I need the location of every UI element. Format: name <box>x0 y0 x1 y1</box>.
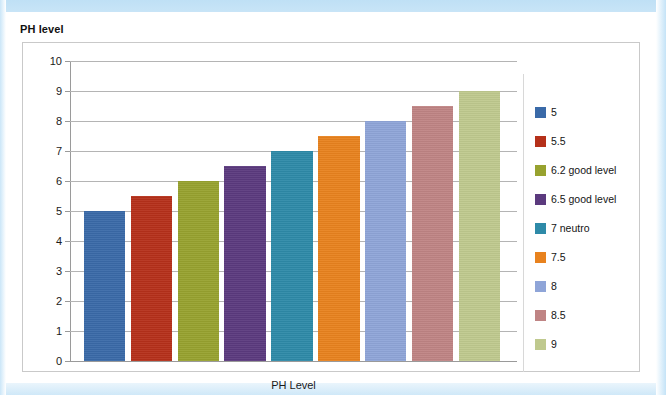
legend-item[interactable]: 5.5 <box>535 127 639 156</box>
bar[interactable] <box>131 196 172 361</box>
y-axis-tick <box>65 331 70 332</box>
y-axis-label: 8 <box>56 115 62 127</box>
y-axis-tick <box>65 91 70 92</box>
y-axis-label: 7 <box>56 145 62 157</box>
y-axis-label: 0 <box>56 355 62 367</box>
bar-slot <box>269 61 316 361</box>
y-axis-tick <box>65 61 70 62</box>
legend-swatch-icon <box>535 252 546 263</box>
bar[interactable] <box>224 166 265 361</box>
y-axis-tick <box>65 241 70 242</box>
y-axis-tick <box>65 181 70 182</box>
bar-slot <box>81 61 128 361</box>
x-axis-title: PH Level <box>70 379 517 391</box>
legend-item[interactable]: 7 neutro <box>535 214 639 243</box>
plot-area: 109876543210 <box>70 61 517 361</box>
y-axis-label: 1 <box>56 325 62 337</box>
legend-label: 6.2 good level <box>551 165 616 176</box>
y-axis-tick <box>65 151 70 152</box>
y-axis-tick <box>65 121 70 122</box>
legend-item[interactable]: 8.5 <box>535 301 639 330</box>
bar[interactable] <box>271 151 312 361</box>
legend-swatch-icon <box>535 310 546 321</box>
legend-label: 5.5 <box>551 136 566 147</box>
bar-series <box>71 61 517 361</box>
legend-swatch-icon <box>535 339 546 350</box>
bar-slot <box>456 61 503 361</box>
legend-item[interactable]: 7.5 <box>535 243 639 272</box>
y-axis-tick <box>65 301 70 302</box>
legend-swatch-icon <box>535 136 546 147</box>
bar-slot <box>128 61 175 361</box>
y-axis-tick <box>65 211 70 212</box>
y-axis-tick <box>65 361 70 362</box>
bar[interactable] <box>365 121 406 361</box>
bar[interactable] <box>178 181 219 361</box>
chart-plot-frame: 109876543210 PH Level 55.56.2 good level… <box>22 42 640 372</box>
legend-swatch-icon <box>535 194 546 205</box>
bar-slot <box>409 61 456 361</box>
legend-item[interactable]: 5 <box>535 98 639 127</box>
bar-slot <box>315 61 362 361</box>
legend-swatch-icon <box>535 281 546 292</box>
chart-card: PH level 109876543210 PH Level 55.56.2 g… <box>6 12 656 383</box>
y-axis-tick <box>65 271 70 272</box>
page-root: PH level 109876543210 PH Level 55.56.2 g… <box>0 0 666 395</box>
y-axis-label: 5 <box>56 205 62 217</box>
legend-item[interactable]: 6.5 good level <box>535 185 639 214</box>
legend-swatch-icon <box>535 165 546 176</box>
chart-legend: 55.56.2 good level6.5 good level7 neutro… <box>535 98 639 359</box>
bar-slot <box>362 61 409 361</box>
legend-swatch-icon <box>535 223 546 234</box>
legend-item[interactable]: 6.2 good level <box>535 156 639 185</box>
bar-slot <box>175 61 222 361</box>
legend-label: 9 <box>551 339 557 350</box>
y-axis-label: 2 <box>56 295 62 307</box>
bar[interactable] <box>459 91 500 361</box>
y-axis-label: 4 <box>56 235 62 247</box>
y-axis-label: 3 <box>56 265 62 277</box>
legend-label: 8 <box>551 281 557 292</box>
legend-label: 6.5 good level <box>551 194 616 205</box>
legend-item[interactable]: 8 <box>535 272 639 301</box>
y-axis-label: 6 <box>56 175 62 187</box>
legend-swatch-icon <box>535 107 546 118</box>
y-axis-label: 9 <box>56 85 62 97</box>
bar-slot <box>222 61 269 361</box>
legend-item[interactable]: 9 <box>535 330 639 359</box>
gridline: 0 <box>70 361 517 362</box>
chart-title: PH level <box>20 23 64 35</box>
legend-divider <box>523 74 524 372</box>
bar[interactable] <box>412 106 453 361</box>
legend-label: 5 <box>551 107 557 118</box>
legend-label: 7 neutro <box>551 223 590 234</box>
y-axis-label: 10 <box>50 55 62 67</box>
bar[interactable] <box>84 211 125 361</box>
legend-label: 7.5 <box>551 252 566 263</box>
bar[interactable] <box>318 136 359 361</box>
scan-background-right <box>656 0 666 395</box>
legend-label: 8.5 <box>551 310 566 321</box>
